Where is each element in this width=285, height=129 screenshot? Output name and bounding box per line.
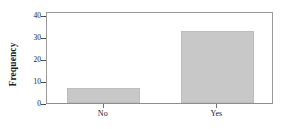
y-tick-label: 10 [24, 78, 41, 86]
bar-no [67, 88, 140, 103]
y-tick-label: 40 [24, 13, 41, 21]
x-axis-line [46, 103, 273, 104]
x-tick-mark [216, 104, 217, 108]
y-tick-label: 30 [24, 35, 41, 43]
bar-chart: Frequency 010203040 NoYes [0, 0, 285, 129]
y-tick-mark [41, 104, 46, 105]
y-axis-tick-labels: 010203040 [24, 0, 41, 129]
y-tick-label: 0 [24, 100, 41, 108]
plot-inner [47, 13, 272, 103]
y-tick-label: 20 [24, 56, 41, 64]
x-tick-mark [103, 104, 104, 108]
y-axis-title: Frequency [0, 0, 26, 129]
plot-area [46, 12, 273, 104]
bar-yes [181, 31, 254, 103]
x-tick-label-no: No [98, 110, 108, 118]
x-tick-label-yes: Yes [210, 110, 222, 118]
